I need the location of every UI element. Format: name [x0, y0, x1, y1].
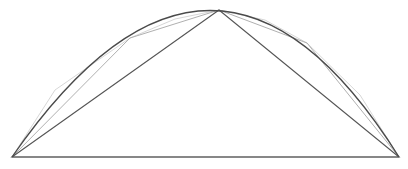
parabola-quadrature-diagram: [0, 0, 408, 169]
background: [0, 0, 408, 169]
